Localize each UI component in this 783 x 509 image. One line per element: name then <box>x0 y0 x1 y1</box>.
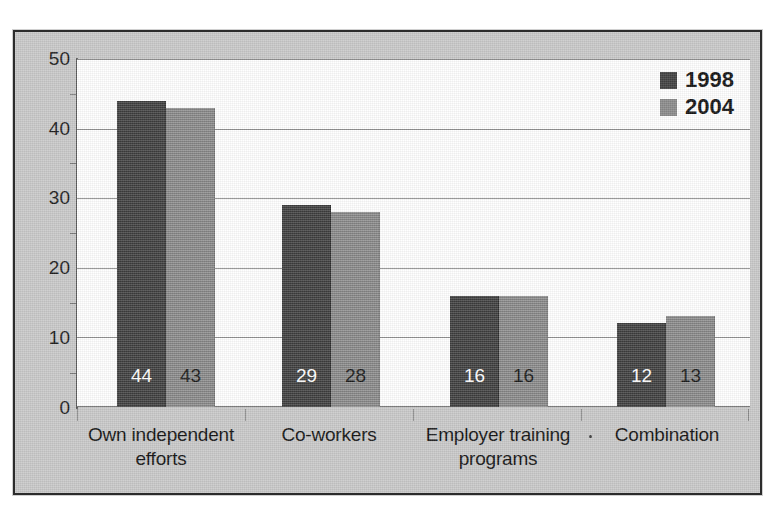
bar-1998-co-workers[interactable]: 29 <box>282 205 331 407</box>
bar-1998-own-independent-efforts[interactable]: 44 <box>117 101 166 407</box>
category-separator <box>581 409 582 421</box>
y-tick-label-10: 10 <box>26 328 70 347</box>
legend-swatch-icon-1998 <box>660 72 677 89</box>
category-label-line: Employer training <box>415 423 581 447</box>
plot-area: 44 43 29 28 16 16 12 <box>77 59 750 407</box>
category-label-own-independent-efforts: Own independent efforts <box>81 423 241 472</box>
category-label-line: Co-workers <box>249 423 409 447</box>
bar-value-label: 29 <box>282 366 331 385</box>
bar-group-co-workers: 29 28 <box>282 59 380 407</box>
bar-1998-combination[interactable]: 12 <box>617 323 666 407</box>
category-separator <box>748 409 749 421</box>
bar-value-label: 13 <box>666 366 715 385</box>
bar-1998-employer-training-programs[interactable]: 16 <box>450 296 499 407</box>
bar-2004-co-workers[interactable]: 28 <box>331 212 380 407</box>
legend-item-2004[interactable]: 2004 <box>660 96 734 118</box>
category-separator <box>77 409 78 421</box>
category-label-line: Own independent <box>81 423 241 447</box>
bar-value-label: 12 <box>617 366 666 385</box>
category-label-combination: Combination <box>587 423 747 447</box>
bar-2004-own-independent-efforts[interactable]: 43 <box>166 108 215 407</box>
bar-2004-combination[interactable]: 13 <box>666 316 715 407</box>
legend-swatch-icon-2004 <box>660 99 677 116</box>
category-separator <box>245 409 246 421</box>
category-separator <box>413 409 414 421</box>
y-tick-label-30: 30 <box>26 188 70 207</box>
y-tick-label-20: 20 <box>26 258 70 277</box>
y-tick-label-50: 50 <box>26 49 70 68</box>
bar-value-label: 43 <box>166 366 215 385</box>
scan-artifact-text <box>40 0 460 7</box>
category-label-employer-training-programs: Employer training programs <box>415 423 581 472</box>
legend: 1998 2004 <box>654 67 740 121</box>
bar-value-label: 28 <box>331 366 380 385</box>
category-label-line: Combination <box>587 423 747 447</box>
y-tick-label-0: 0 <box>26 398 70 417</box>
legend-item-1998[interactable]: 1998 <box>660 69 734 91</box>
category-axis: Own independent efforts Co-workers Emplo… <box>77 415 750 493</box>
bar-value-label: 16 <box>450 366 499 385</box>
y-axis-labels: 50 40 30 20 10 0 <box>15 32 70 493</box>
bar-value-label: 16 <box>499 366 548 385</box>
chart-frame: 50 40 30 20 10 0 44 43 29 <box>13 30 762 495</box>
bar-2004-employer-training-programs[interactable]: 16 <box>499 296 548 407</box>
category-label-co-workers: Co-workers <box>249 423 409 447</box>
bar-group-employer-training-programs: 16 16 <box>450 59 548 407</box>
y-tick-label-40: 40 <box>26 119 70 138</box>
category-label-line: programs <box>415 447 581 471</box>
legend-label-1998: 1998 <box>685 69 734 91</box>
bar-group-own-independent-efforts: 44 43 <box>117 59 215 407</box>
bar-value-label: 44 <box>117 366 166 385</box>
legend-label-2004: 2004 <box>685 96 734 118</box>
category-label-line: efforts <box>81 447 241 471</box>
